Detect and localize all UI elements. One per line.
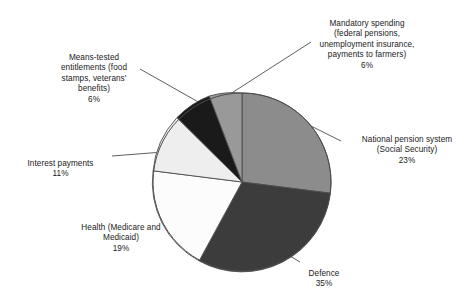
pie-label-mandatory-text: Mandatory spending (federal pensions, un…	[320, 19, 415, 60]
pie-label-defence-text: Defence	[309, 269, 340, 278]
pie-chart-figure: Mandatory spending (federal pensions, un…	[0, 0, 472, 297]
pie-label-defence: Defence 35%	[288, 258, 360, 297]
pie-label-mandatory: Mandatory spending (federal pensions, un…	[287, 8, 447, 82]
pie-label-pension-value: 23%	[343, 156, 471, 167]
pie-label-means-tested: Means-tested entitlements (food stamps, …	[33, 42, 155, 116]
pie-label-means-tested-text: Means-tested entitlements (food stamps, …	[61, 53, 127, 94]
pie-label-interest-text: Interest payments	[28, 159, 94, 168]
pie-label-interest-value: 11%	[8, 169, 113, 180]
pie-label-mandatory-value: 6%	[287, 61, 447, 72]
pie-label-health-text: Health (Medicare and Medicaid)	[81, 223, 160, 243]
pie-slice-pension[interactable]	[242, 93, 331, 193]
pie-label-pension: National pension system (Social Security…	[343, 124, 471, 177]
pie-label-defence-value: 35%	[288, 279, 360, 290]
pie-label-health-value: 19%	[47, 244, 195, 255]
pie-label-interest: Interest payments 11%	[8, 148, 113, 190]
pie-label-health: Health (Medicare and Medicaid) 19%	[47, 212, 195, 265]
pie-label-means-tested-value: 6%	[33, 95, 155, 106]
pie-label-pension-text: National pension system (Social Security…	[362, 135, 452, 155]
